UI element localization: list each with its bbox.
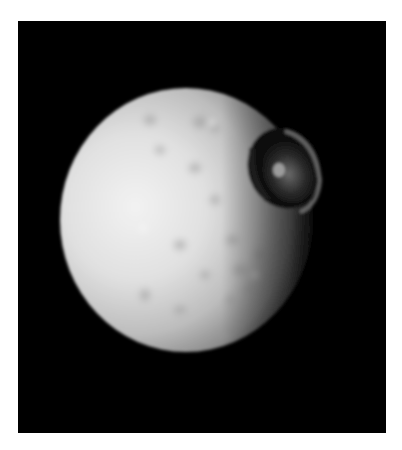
central-peak: [273, 163, 285, 177]
moon: [60, 85, 332, 355]
moon-photo: [0, 0, 402, 450]
